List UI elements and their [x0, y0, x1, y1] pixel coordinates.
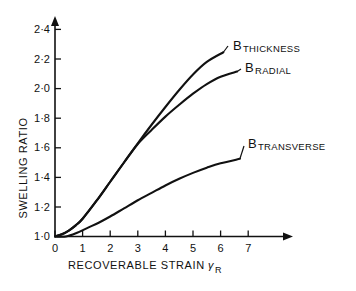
y-tick-label-1: 1·2: [34, 201, 50, 213]
swelling-ratio-line-chart: 1·0 1·2 1·4 1·6 1·8 2·0 2·2 2·4 SWELLING…: [0, 0, 356, 291]
x-tick-label-1: 1: [80, 242, 86, 254]
y-tick-label-3: 1·6: [34, 141, 50, 153]
x-tick-label-7: 7: [245, 242, 251, 254]
x-axis-title: RECOVERABLE STRAIN γ R: [68, 259, 222, 275]
x-tick-label-0: 0: [52, 242, 58, 254]
x-axis-arrowhead: [283, 233, 293, 241]
leader-line-1: [237, 69, 241, 71]
x-axis-title-symbol: γ: [208, 259, 215, 271]
x-tick-label-3: 3: [135, 242, 141, 254]
y-axis: 1·0 1·2 1·4 1·6 1·8 2·0 2·2 2·4 SWELLING…: [17, 16, 61, 242]
x-tick-label-6: 6: [218, 242, 224, 254]
x-axis-title-symbol-subscript: R: [215, 265, 222, 275]
y-tick-label-2: 1·4: [34, 171, 50, 183]
label-thickness-sub: THICKNESS: [243, 43, 300, 54]
y-tick-label-6: 2·2: [34, 53, 50, 65]
curve-radial: [55, 71, 237, 236]
y-axis-arrowhead: [51, 16, 59, 26]
label-transverse-sub: TRANSVERSE: [258, 141, 325, 152]
curve-transverse: [55, 159, 240, 237]
chart-figure: 1·0 1·2 1·4 1·6 1·8 2·0 2·2 2·4 SWELLING…: [0, 0, 356, 291]
y-tick-label-4: 1·8: [34, 112, 50, 124]
curve-thickness: [55, 52, 223, 236]
leader-line-2: [240, 146, 244, 159]
y-tick-label-7: 2·4: [34, 23, 50, 35]
label-transverse-main: B: [248, 136, 257, 151]
y-tick-label-5: 2·0: [34, 82, 50, 94]
label-radial-main: B: [245, 60, 254, 75]
x-tick-label-4: 4: [162, 242, 168, 254]
x-tick-label-5: 5: [190, 242, 196, 254]
y-axis-title: SWELLING RATIO: [17, 117, 29, 218]
series-labels: B THICKNESS B RADIAL B TRANSVERSE: [233, 38, 325, 152]
data-curves: [55, 52, 240, 237]
x-axis-title-text: RECOVERABLE STRAIN: [68, 259, 205, 271]
label-thickness-main: B: [233, 38, 242, 53]
x-tick-label-2: 2: [107, 242, 113, 254]
label-leader-lines: [223, 46, 244, 159]
leader-line-0: [223, 46, 228, 52]
y-tick-label-0: 1·0: [34, 230, 50, 242]
label-radial-sub: RADIAL: [255, 65, 291, 76]
x-axis: 0 1 2 3 4 5 6 7 RECOVERABLE STRAIN γ R: [52, 231, 293, 276]
